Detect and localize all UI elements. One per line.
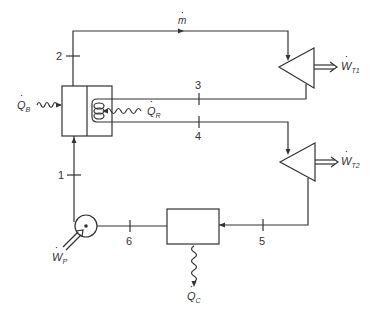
state-label-2: 2 xyxy=(56,51,62,62)
wp-dot: · xyxy=(55,244,58,253)
wt1-dot: · xyxy=(345,53,348,62)
line-state-3 xyxy=(112,84,306,99)
reheat-heat-label: QR xyxy=(147,106,161,119)
state-label-6: 6 xyxy=(126,236,132,247)
line-state-5 xyxy=(219,178,308,225)
reheat-heat-wave xyxy=(106,109,141,114)
wt2-dot: · xyxy=(345,148,348,157)
line-state-2 xyxy=(73,31,288,86)
turbine-1-work-arrow-icon xyxy=(314,62,337,72)
qc-dot: · xyxy=(190,283,193,292)
turbine-1 xyxy=(279,48,314,88)
pump-center-dot xyxy=(84,224,88,228)
pump-work-arrow-icon xyxy=(63,230,83,250)
qr-dot: · xyxy=(150,98,153,107)
mass-flow-dot: · xyxy=(181,9,184,18)
turbine-1-work-label: WT1 xyxy=(341,61,360,74)
turbine-2-work-label: WT2 xyxy=(341,156,360,169)
state-label-3: 3 xyxy=(195,80,201,91)
pump-work-label: WP xyxy=(52,252,67,265)
state-label-4: 4 xyxy=(195,131,201,142)
state-label-1: 1 xyxy=(58,170,64,181)
qb-dot: · xyxy=(20,92,23,101)
state-label-5: 5 xyxy=(259,236,265,247)
t1-inlet-arrow-icon xyxy=(286,55,291,61)
qb-arrow-icon xyxy=(56,103,62,108)
condenser-inlet-arrow-icon xyxy=(219,223,225,228)
boiler-inlet-arrow-icon xyxy=(72,137,77,143)
condenser-box xyxy=(167,209,219,244)
t2-inlet-arrow-icon xyxy=(286,149,291,155)
turbine-2-work-arrow-icon xyxy=(315,157,338,167)
condenser-heat-label: QC xyxy=(187,291,201,304)
flow-arrow-icon xyxy=(178,29,184,34)
turbine-2 xyxy=(280,143,315,181)
condenser-heat-wave xyxy=(192,246,197,284)
boiler-heat-label: QB xyxy=(17,100,30,113)
